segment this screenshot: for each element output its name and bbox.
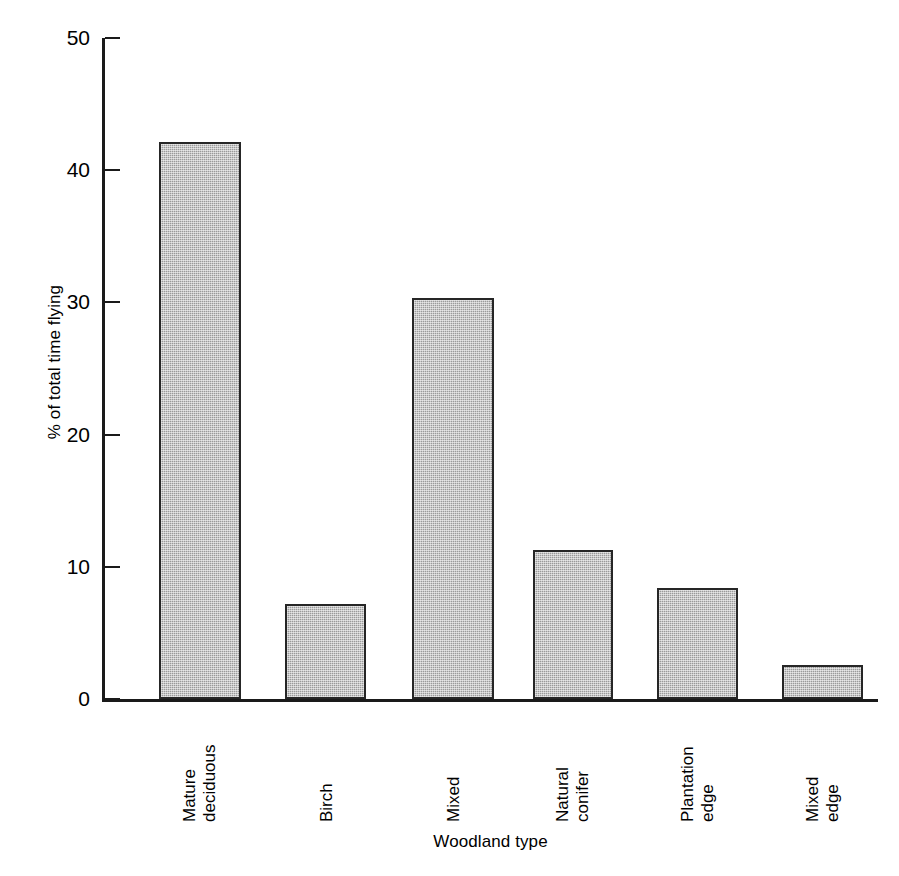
category-label-line-1: Plantation bbox=[678, 746, 697, 822]
y-axis-tick bbox=[105, 169, 120, 171]
y-axis-line bbox=[102, 38, 105, 702]
y-axis-title: % of total time flying bbox=[45, 212, 65, 512]
category-label-line-1: Natural bbox=[553, 767, 572, 822]
bar[interactable] bbox=[412, 298, 494, 699]
y-axis-tick bbox=[105, 434, 120, 436]
y-axis-tick-label: 50 bbox=[30, 27, 90, 48]
x-axis-line bbox=[102, 699, 878, 702]
bar[interactable] bbox=[533, 550, 613, 699]
y-axis-tick bbox=[105, 698, 120, 700]
x-axis-category-label: Birch bbox=[317, 783, 337, 822]
y-axis-tick bbox=[105, 566, 120, 568]
y-axis-tick-label: 0 bbox=[30, 688, 90, 709]
category-label-line-2: deciduous bbox=[200, 744, 220, 822]
category-label-line-2: edge bbox=[823, 777, 843, 822]
y-axis-tick-label: 30 bbox=[30, 291, 90, 312]
y-axis-tick bbox=[105, 37, 120, 39]
y-axis-tick-label: 10 bbox=[30, 556, 90, 577]
bar[interactable] bbox=[159, 142, 241, 699]
bar-chart-figure: % of total time flying 01020304050 Matur… bbox=[0, 0, 899, 876]
x-axis-category-label: Mixededge bbox=[803, 777, 843, 822]
bar[interactable] bbox=[782, 665, 863, 699]
category-label-line-1: Mixed bbox=[803, 777, 822, 822]
plot-area bbox=[0, 0, 899, 876]
category-label-line-1: Birch bbox=[317, 783, 336, 822]
y-axis-tick-label: 20 bbox=[30, 424, 90, 445]
x-axis-category-label: Maturedeciduous bbox=[180, 744, 220, 822]
category-label-line-1: Mixed bbox=[444, 777, 463, 822]
x-axis-category-label: Mixed bbox=[444, 777, 464, 822]
category-label-line-2: edge bbox=[698, 746, 718, 822]
bar[interactable] bbox=[285, 604, 366, 699]
y-axis-tick bbox=[105, 301, 120, 303]
x-axis-category-label: Plantationedge bbox=[678, 746, 718, 822]
x-axis-title: Woodland type bbox=[103, 832, 878, 852]
category-label-line-1: Mature bbox=[180, 769, 199, 822]
x-axis-category-label: Naturalconifer bbox=[553, 767, 593, 822]
y-axis-tick-label: 40 bbox=[30, 159, 90, 180]
category-label-line-2: conifer bbox=[573, 767, 593, 822]
bar[interactable] bbox=[657, 588, 738, 699]
